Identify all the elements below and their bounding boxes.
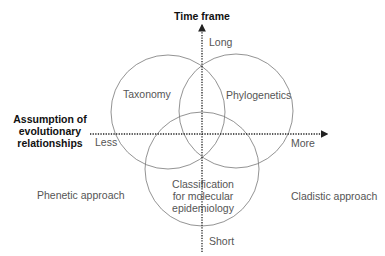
horizontal-axis-title: Assumption of evolutionary relationships (10, 113, 90, 149)
axis-title-line: Assumption of (10, 113, 90, 125)
classification-line: Classification (168, 178, 238, 190)
classification-label: Classification for molecular epidemiolog… (168, 178, 238, 214)
axis-title-line: evolutionary (10, 125, 90, 137)
less-label: Less (95, 136, 117, 148)
taxonomy-label: Taxonomy (123, 88, 171, 100)
phylogenetics-circle (179, 54, 293, 168)
phenetic-approach-label: Phenetic approach (37, 189, 125, 201)
short-label: Short (209, 235, 234, 247)
cladistic-approach-label: Cladistic approach (291, 190, 377, 202)
more-label: More (291, 137, 315, 149)
vertical-axis-title: Time frame (174, 10, 230, 22)
long-label: Long (209, 36, 232, 48)
phylogenetics-label: Phylogenetics (226, 89, 291, 101)
classification-line: for molecular (168, 190, 238, 202)
classification-line: epidemiology (168, 202, 238, 214)
axis-title-line: relationships (10, 137, 90, 149)
